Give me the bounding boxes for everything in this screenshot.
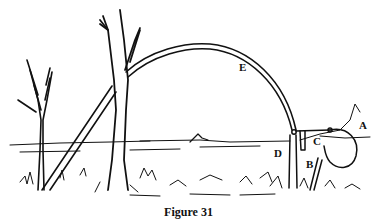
label-e: E (239, 62, 246, 73)
left-tree (18, 60, 52, 190)
leaning-pole (42, 86, 116, 190)
label-b: B (306, 159, 313, 170)
label-d: D (274, 148, 282, 159)
trigger-mechanism (289, 128, 357, 190)
label-c: C (313, 136, 321, 147)
bent-sapling (126, 44, 296, 130)
ground-scrub (20, 168, 360, 196)
figure-caption: Figure 31 (0, 205, 377, 220)
label-a: A (359, 120, 367, 131)
snare-trap-illustration (0, 0, 377, 222)
